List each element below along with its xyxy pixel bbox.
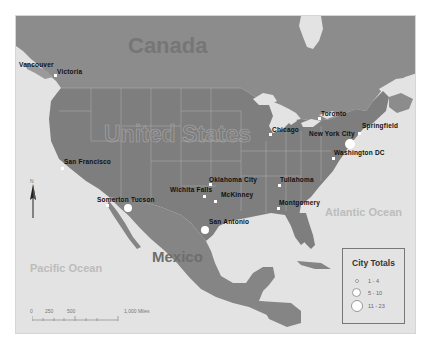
city-label-tullahoma: Tullahoma — [280, 176, 314, 183]
city-marker-tullahoma[interactable] — [278, 184, 281, 187]
legend-label-small: 1 - 4 — [368, 278, 379, 284]
city-label-toronto: Toronto — [321, 110, 346, 117]
city-label-somerton-tucson: Somerton Tucson — [97, 196, 155, 203]
city-marker-chicago[interactable] — [269, 133, 272, 136]
scale-bar-line — [32, 315, 122, 323]
city-label-washington-dc: Washington DC — [334, 149, 385, 156]
ocean-label-atlantic: Atlantic Ocean — [325, 206, 402, 218]
legend-symbol-large — [351, 300, 363, 312]
scale-tick-500: 500 — [67, 308, 75, 314]
north-arrow-icon — [27, 184, 39, 220]
city-label-chicago: Chicago — [272, 126, 299, 133]
country-label-united-states: United States — [104, 121, 251, 148]
city-label-springfield: Springfield — [362, 122, 398, 129]
legend-symbol-medium — [352, 288, 361, 297]
scale-bar: 0 250 500 1,000 Miles — [30, 308, 140, 326]
city-label-victoria: Victoria — [57, 68, 82, 75]
legend-label-large: 11 - 23 — [368, 303, 385, 309]
city-marker-tucson[interactable] — [124, 204, 132, 212]
city-label-san-antonio: San Antonio — [209, 218, 249, 225]
city-label-oklahoma-city: Oklahoma City — [209, 176, 257, 183]
north-arrow: N — [27, 178, 39, 218]
city-marker-montgomery[interactable] — [277, 207, 280, 210]
country-label-canada: Canada — [128, 33, 207, 59]
legend-title: City Totals — [343, 258, 404, 268]
city-label-new-york-city: New York City — [309, 130, 355, 137]
city-marker-washington-dc[interactable] — [332, 157, 335, 160]
city-label-mckinney: McKinney — [221, 191, 253, 198]
city-marker-toronto[interactable] — [318, 117, 321, 120]
legend-label-medium: 5 - 10 — [368, 290, 382, 296]
city-label-san-francisco: San Francisco — [64, 158, 111, 165]
map-frame: Canada United States Mexico Pacific Ocea… — [15, 15, 416, 334]
city-marker-somerton[interactable] — [106, 204, 109, 207]
legend: City Totals 1 - 4 5 - 10 11 - 23 — [342, 248, 405, 324]
city-marker-northeast-large[interactable] — [345, 139, 355, 149]
scale-tick-1000: 1,000 Miles — [124, 308, 150, 314]
city-marker-san-antonio[interactable] — [201, 226, 209, 234]
city-marker-wichita-falls[interactable] — [203, 195, 206, 198]
city-label-wichita-falls: Wichita Falls — [170, 186, 212, 193]
scale-tick-0: 0 — [30, 308, 33, 314]
city-marker-san-francisco[interactable] — [61, 167, 64, 170]
city-marker-new-york-city[interactable] — [358, 132, 361, 135]
city-label-montgomery: Montgomery — [279, 199, 320, 206]
ocean-label-pacific: Pacific Ocean — [30, 262, 102, 274]
legend-symbol-small — [355, 279, 359, 283]
city-marker-mckinney[interactable] — [214, 200, 217, 203]
scale-tick-250: 250 — [45, 308, 53, 314]
country-label-mexico: Mexico — [152, 248, 203, 265]
city-label-vancouver: Vancouver — [19, 61, 54, 68]
